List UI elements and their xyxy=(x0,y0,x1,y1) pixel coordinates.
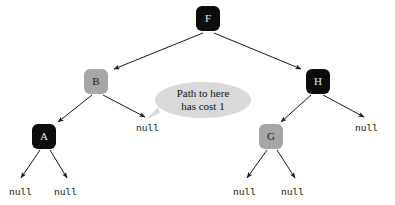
edge-h-to-null xyxy=(323,95,364,117)
tree-node-g-label: G xyxy=(267,131,275,142)
edge-b-to-a xyxy=(58,95,92,122)
null-label-g-right: null xyxy=(281,186,304,197)
tree-node-f[interactable]: F xyxy=(196,6,220,31)
callout-line-1: Path to here xyxy=(177,87,230,100)
edge-f-to-h xyxy=(214,33,301,69)
edge-g-to-null-right xyxy=(277,150,295,178)
tree-node-a[interactable]: A xyxy=(32,124,56,149)
edge-f-to-b xyxy=(114,33,203,69)
callout-line-2: has cost 1 xyxy=(181,100,224,113)
edge-h-to-g xyxy=(281,95,311,122)
null-label-b-right: null xyxy=(136,122,159,133)
edge-b-to-null xyxy=(103,95,145,117)
tree-node-b-label: B xyxy=(92,76,99,87)
tree-node-g[interactable]: G xyxy=(259,124,283,149)
tree-node-f-label: F xyxy=(205,13,211,24)
null-label-h-right: null xyxy=(355,122,378,133)
edge-a-to-null-left xyxy=(21,150,40,178)
tree-node-b[interactable]: B xyxy=(84,69,108,94)
tree-node-a-label: A xyxy=(40,131,48,142)
tree-node-h-label: H xyxy=(314,76,322,87)
edge-a-to-null-right xyxy=(50,150,67,178)
null-label-a-left: null xyxy=(9,186,32,197)
path-cost-callout-text: Path to here has cost 1 xyxy=(155,82,251,118)
null-label-g-left: null xyxy=(233,186,256,197)
edge-g-to-null-left xyxy=(247,150,267,178)
binary-tree-diagram: F B H A G null null null null null null … xyxy=(0,0,395,205)
null-label-a-right: null xyxy=(54,186,77,197)
path-cost-callout: Path to here has cost 1 xyxy=(155,82,251,118)
tree-node-h[interactable]: H xyxy=(306,69,330,94)
